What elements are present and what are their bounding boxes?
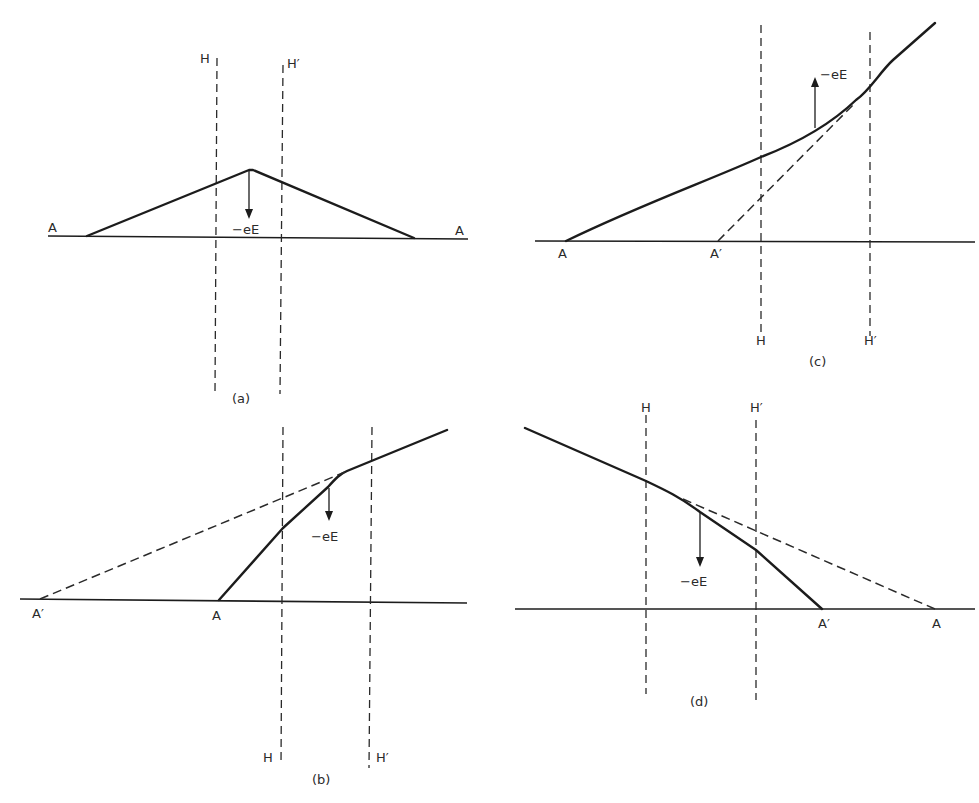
plane-h-b [281, 427, 283, 765]
profile-b [219, 430, 447, 600]
label-h-d: H [641, 400, 651, 415]
tangent-d [683, 499, 935, 609]
label-h-prime-a: H′ [287, 56, 300, 71]
label-force-a: −eE [232, 222, 259, 237]
label-force-b: −eE [311, 529, 338, 544]
caption-d: (d) [690, 694, 708, 709]
label-force-c: −eE [820, 67, 847, 82]
caption-a: (a) [232, 391, 250, 406]
diagram-figure: H H′ A A −eE (a) −eE A A′ H H′ (c) −eE A… [0, 0, 979, 803]
label-a-prime-b: A′ [32, 606, 44, 621]
profile-d [525, 428, 822, 609]
label-a-d: A [932, 616, 941, 631]
tangent-c [718, 104, 854, 241]
caption-b: (b) [312, 772, 330, 787]
label-h-prime-c: H′ [864, 333, 877, 348]
panel-c: −eE A A′ H H′ (c) [535, 23, 975, 369]
label-a-right: A [455, 223, 464, 238]
label-a-c: A [558, 246, 567, 261]
label-a-b: A [212, 608, 221, 623]
arrow-down-icon [325, 511, 333, 521]
label-force-d: −eE [680, 574, 707, 589]
panel-d: −eE A′ A H H′ (d) [515, 400, 975, 709]
label-a-left: A [48, 220, 57, 235]
arrow-down-icon [696, 557, 704, 567]
caption-c: (c) [809, 354, 826, 369]
tangent-b [40, 472, 345, 599]
label-h-c: H [756, 333, 766, 348]
panel-b: −eE A′ A H H′ (b) [20, 427, 467, 787]
label-h-b: H [263, 750, 273, 765]
arrow-down-icon [245, 209, 253, 219]
plane-h-a [215, 58, 217, 392]
label-a-prime-d: A′ [818, 616, 830, 631]
panel-a: H H′ A A −eE (a) [48, 51, 468, 406]
label-h-a: H [200, 51, 210, 66]
label-a-prime-c: A′ [710, 246, 722, 261]
plane-h-prime-b [369, 427, 372, 768]
label-h-prime-b: H′ [376, 750, 389, 765]
axis-line-b [20, 599, 467, 603]
plane-h-prime-a [280, 65, 283, 394]
arrow-up-icon [811, 77, 819, 87]
label-h-prime-d: H′ [750, 400, 763, 415]
axis-line-c [535, 241, 975, 242]
